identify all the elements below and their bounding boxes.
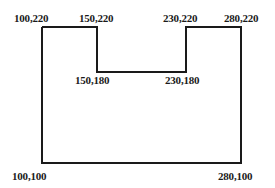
vertex-label-280-220: 280,220 <box>224 12 258 24</box>
vertex-label-230-180: 230,180 <box>165 74 199 86</box>
vertex-label-100-220: 100,220 <box>14 12 48 24</box>
polygon-diagram <box>0 0 275 188</box>
vertex-label-100-100: 100,100 <box>12 170 46 182</box>
vertex-label-150-220: 150,220 <box>79 12 113 24</box>
vertex-label-230-220: 230,220 <box>163 12 197 24</box>
vertex-label-280-100: 280,100 <box>218 170 252 182</box>
vertex-label-150-180: 150,180 <box>75 74 109 86</box>
polygon-outline <box>42 27 241 163</box>
